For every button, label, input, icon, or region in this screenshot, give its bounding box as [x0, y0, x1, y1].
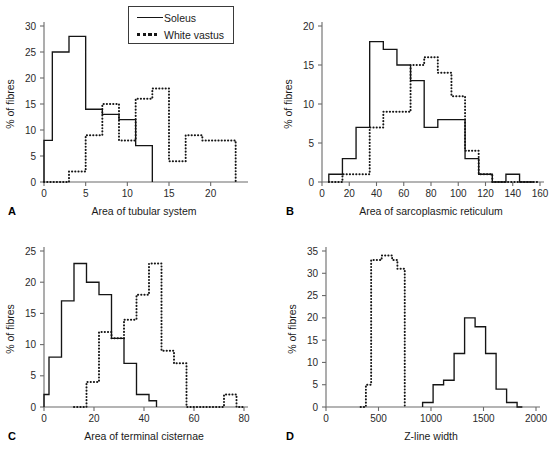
y-tick-label: 25	[307, 290, 319, 301]
x-tick-label: 140	[504, 188, 521, 199]
series-soleus	[423, 318, 523, 407]
x-tick-label: 40	[371, 188, 383, 199]
x-tick-label: 20	[88, 413, 100, 424]
legend-solid-line-icon	[136, 13, 164, 23]
y-axis-title: % of fibres	[282, 79, 294, 129]
x-axis-title: Area of tubular system	[91, 205, 196, 217]
y-tick-label: 30	[25, 21, 37, 32]
x-tick-label: 500	[370, 413, 387, 424]
y-tick-label: 10	[307, 357, 319, 368]
legend-entry-soleus: Soleus	[129, 9, 233, 26]
y-tick-label: 5	[30, 151, 36, 162]
panel-letter: A	[8, 205, 16, 217]
y-tick-label: 5	[312, 379, 318, 390]
panel-b: 02040608010012014016005101520Area of sar…	[278, 0, 556, 225]
x-axis-title: Area of terminal cisternae	[84, 430, 204, 442]
legend-dotted-line-icon	[136, 30, 164, 40]
x-tick-label: 120	[477, 188, 494, 199]
chart-b: 02040608010012014016005101520Area of sar…	[278, 0, 556, 225]
x-tick-label: 0	[323, 413, 329, 424]
legend: Soleus White vastus	[128, 6, 234, 44]
y-tick-label: 5	[308, 138, 314, 149]
x-axis-title: Area of sarcoplasmic reticulum	[359, 205, 503, 217]
chart-c: 0204060800510152025Area of terminal cist…	[0, 225, 278, 450]
x-tick-label: 160	[532, 188, 549, 199]
y-tick-label: 5	[30, 370, 36, 381]
figure-root: 05101520051015202530Area of tubular syst…	[0, 0, 556, 450]
x-tick-label: 1500	[472, 413, 495, 424]
y-tick-label: 30	[307, 268, 319, 279]
y-tick-label: 10	[303, 99, 315, 110]
x-tick-label: 40	[138, 413, 150, 424]
y-axis-title: % of fibres	[4, 304, 16, 354]
x-tick-label: 5	[83, 188, 89, 199]
y-tick-label: 0	[30, 177, 36, 188]
series-white-vastus	[329, 57, 540, 182]
y-tick-label: 10	[25, 125, 37, 136]
series-soleus	[44, 263, 157, 407]
y-tick-label: 15	[303, 60, 315, 71]
legend-label-white-vastus: White vastus	[164, 29, 224, 41]
x-axis-title: Z-line width	[404, 430, 458, 442]
y-tick-label: 0	[30, 402, 36, 413]
y-axis-title: % of fibres	[4, 79, 16, 129]
series-soleus	[329, 42, 533, 182]
panel-letter: B	[286, 205, 294, 217]
x-tick-label: 0	[41, 188, 47, 199]
y-tick-label: 25	[25, 47, 37, 58]
panel-letter: C	[8, 430, 16, 442]
x-tick-label: 80	[238, 413, 250, 424]
axes-lines	[44, 22, 248, 182]
x-tick-label: 80	[425, 188, 437, 199]
y-tick-label: 15	[25, 99, 37, 110]
panel-letter: D	[286, 430, 294, 442]
y-tick-label: 25	[25, 246, 37, 257]
x-tick-label: 20	[344, 188, 356, 199]
x-tick-label: 60	[398, 188, 410, 199]
y-axis-title: % of fibres	[286, 304, 298, 354]
x-tick-label: 2000	[525, 413, 548, 424]
x-tick-label: 10	[122, 188, 134, 199]
y-tick-label: 20	[25, 277, 37, 288]
legend-label-soleus: Soleus	[164, 12, 196, 24]
y-tick-label: 15	[25, 308, 37, 319]
y-tick-label: 0	[308, 177, 314, 188]
x-tick-label: 0	[319, 188, 325, 199]
axes-lines	[326, 247, 540, 407]
x-tick-label: 0	[41, 413, 47, 424]
x-tick-label: 60	[188, 413, 200, 424]
y-tick-label: 20	[303, 21, 315, 32]
chart-d: 050010001500200005101520253035Z-line wid…	[278, 225, 556, 450]
x-tick-label: 20	[205, 188, 217, 199]
y-tick-label: 35	[307, 246, 319, 257]
x-tick-label: 1000	[420, 413, 443, 424]
panel-d: 050010001500200005101520253035Z-line wid…	[278, 225, 556, 450]
y-tick-label: 15	[307, 335, 319, 346]
series-white-vastus	[361, 255, 405, 407]
y-tick-label: 20	[25, 73, 37, 84]
series-white-vastus	[44, 88, 236, 182]
panel-c: 0204060800510152025Area of terminal cist…	[0, 225, 278, 450]
y-tick-label: 20	[307, 312, 319, 323]
x-tick-label: 100	[450, 188, 467, 199]
y-tick-label: 0	[312, 402, 318, 413]
x-tick-label: 15	[163, 188, 175, 199]
legend-entry-white-vastus: White vastus	[129, 26, 233, 43]
y-tick-label: 10	[25, 339, 37, 350]
